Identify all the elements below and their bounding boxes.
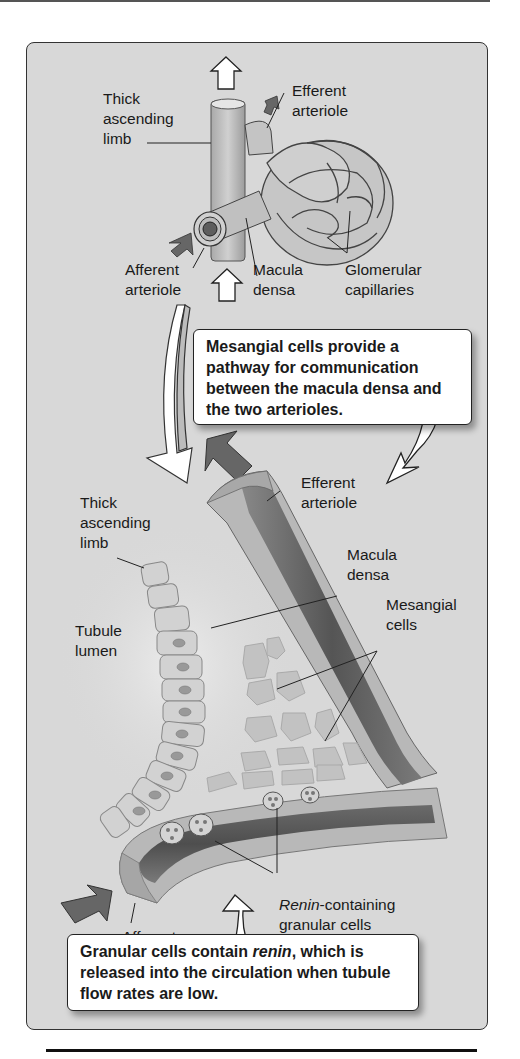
label-mesangial-cells: Mesangial cells — [386, 595, 457, 635]
callout-mesangial: Mesangial cells provide a pathway for co… — [193, 329, 472, 425]
label-thick-ascending-limb-top: Thick ascending limb — [103, 89, 174, 149]
figure-panel: Thick ascending limb Efferent arteriole … — [26, 42, 488, 1030]
label-thick-ascending-limb-detail: Thick ascending limb — [80, 493, 151, 553]
label-renin-italic: Renin — [279, 896, 320, 913]
dark-flow-arrow-mid — [205, 431, 252, 481]
label-macula-densa-detail: Macula densa — [347, 545, 397, 585]
callout-granular: Granular cells contain renin, which is r… — [67, 934, 419, 1011]
label-efferent-arteriole-detail: Efferent arteriole — [301, 473, 357, 513]
label-afferent-arteriole-top: Afferent arteriole — [125, 260, 181, 300]
glomerulus — [261, 141, 393, 266]
top-border-line — [0, 0, 490, 2]
label-efferent-arteriole-top: Efferent arteriole — [292, 81, 348, 121]
flow-up-arrow-top — [211, 57, 241, 89]
bottom-rule — [46, 1049, 477, 1052]
callout-granular-renin-italic: renin — [253, 943, 292, 960]
flow-up-arrow-bottom — [212, 269, 242, 301]
dark-flow-arrow-bottom — [61, 885, 112, 923]
label-tubule-lumen: Tubule lumen — [75, 621, 122, 661]
callout-granular-text-1: Granular cells contain — [80, 943, 253, 960]
label-glomerular-capillaries: Glomerular capillaries — [345, 260, 422, 300]
label-macula-densa-top: Macula densa — [253, 260, 303, 300]
label-renin-granular-cells: Renin-containing granular cells — [279, 875, 395, 935]
curved-hollow-arrow — [147, 305, 192, 483]
